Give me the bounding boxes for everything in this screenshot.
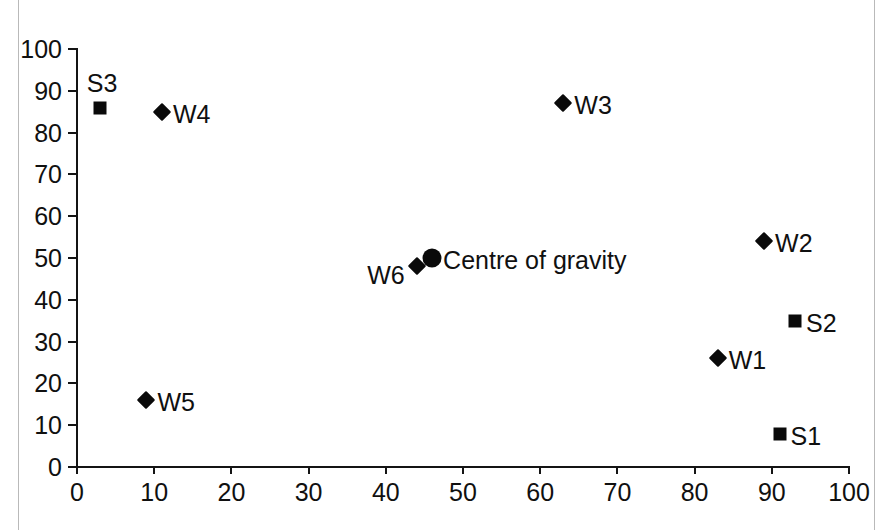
y-tick-label-60: 60 bbox=[0, 204, 62, 229]
x-tick-label-30: 30 bbox=[295, 480, 323, 505]
y-tick-label-wrap-20: 20 bbox=[0, 383, 62, 408]
x-tick-50 bbox=[462, 466, 464, 474]
data-point-label-w4: W4 bbox=[173, 101, 211, 126]
y-tick-label-wrap-10: 10 bbox=[0, 425, 62, 450]
data-point-label-w1: W1 bbox=[729, 348, 767, 373]
data-point-label-s2: S2 bbox=[806, 310, 837, 335]
data-point-label-s1: S1 bbox=[791, 423, 822, 448]
data-point-w5 bbox=[137, 391, 155, 409]
x-tick-label-100: 100 bbox=[828, 480, 870, 505]
y-tick-50 bbox=[68, 257, 76, 259]
x-tick-label-0: 0 bbox=[70, 480, 84, 505]
y-tick-label-90: 90 bbox=[0, 78, 62, 103]
x-tick-20 bbox=[230, 466, 232, 474]
x-tick-label-60: 60 bbox=[526, 480, 554, 505]
x-tick-30 bbox=[308, 466, 310, 474]
data-point-s1 bbox=[773, 427, 786, 440]
data-point-label-s3: S3 bbox=[87, 71, 118, 96]
y-tick-10 bbox=[68, 424, 76, 426]
x-tick-90 bbox=[771, 466, 773, 474]
y-tick-label-wrap-0: 0 bbox=[0, 467, 62, 492]
x-tick-60 bbox=[539, 466, 541, 474]
x-tick-label-90: 90 bbox=[758, 480, 786, 505]
y-tick-40 bbox=[68, 299, 76, 301]
y-tick-60 bbox=[68, 215, 76, 217]
x-tick-100 bbox=[848, 466, 850, 474]
data-point-s3 bbox=[94, 101, 107, 114]
y-tick-70 bbox=[68, 173, 76, 175]
x-tick-label-50: 50 bbox=[449, 480, 477, 505]
y-tick-label-wrap-80: 80 bbox=[0, 133, 62, 158]
x-tick-label-80: 80 bbox=[681, 480, 709, 505]
y-tick-label-wrap-60: 60 bbox=[0, 216, 62, 241]
data-point-w2 bbox=[755, 232, 773, 250]
y-tick-label-80: 80 bbox=[0, 120, 62, 145]
y-tick-label-70: 70 bbox=[0, 162, 62, 187]
data-point-s2 bbox=[788, 314, 801, 327]
y-tick-label-wrap-50: 50 bbox=[0, 258, 62, 283]
y-tick-label-wrap-30: 30 bbox=[0, 342, 62, 367]
y-tick-label-0: 0 bbox=[0, 455, 62, 480]
data-point-label-centre-of-gravity: Centre of gravity bbox=[443, 248, 626, 273]
plot-area: 0102030405060708090100 01020304050607080… bbox=[0, 0, 890, 530]
y-tick-label-wrap-90: 90 bbox=[0, 91, 62, 116]
y-tick-label-wrap-70: 70 bbox=[0, 174, 62, 199]
data-point-label-w3: W3 bbox=[574, 93, 612, 118]
x-tick-label-70: 70 bbox=[603, 480, 631, 505]
data-point-label-w6: W6 bbox=[367, 263, 405, 288]
x-tick-70 bbox=[616, 466, 618, 474]
y-tick-label-40: 40 bbox=[0, 287, 62, 312]
y-tick-0 bbox=[68, 466, 76, 468]
data-point-centre-of-gravity bbox=[423, 249, 442, 268]
x-tick-label-20: 20 bbox=[217, 480, 245, 505]
y-tick-label-50: 50 bbox=[0, 246, 62, 271]
x-tick-10 bbox=[153, 466, 155, 474]
y-axis-line bbox=[76, 48, 78, 468]
x-tick-80 bbox=[694, 466, 696, 474]
y-tick-90 bbox=[68, 90, 76, 92]
data-point-label-w2: W2 bbox=[775, 231, 813, 256]
scatter-plot-figure: 0102030405060708090100 01020304050607080… bbox=[0, 0, 890, 530]
x-tick-40 bbox=[385, 466, 387, 474]
x-tick-0 bbox=[76, 466, 78, 474]
y-tick-label-30: 30 bbox=[0, 329, 62, 354]
x-tick-label-40: 40 bbox=[372, 480, 400, 505]
y-tick-30 bbox=[68, 341, 76, 343]
x-tick-label-10: 10 bbox=[140, 480, 168, 505]
y-tick-label-wrap-40: 40 bbox=[0, 300, 62, 325]
data-point-label-w5: W5 bbox=[157, 390, 195, 415]
y-tick-label-20: 20 bbox=[0, 371, 62, 396]
y-tick-100 bbox=[68, 48, 76, 50]
data-point-w1 bbox=[709, 349, 727, 367]
y-tick-label-wrap-100: 100 bbox=[0, 49, 62, 74]
y-tick-80 bbox=[68, 132, 76, 134]
y-tick-label-10: 10 bbox=[0, 413, 62, 438]
y-tick-20 bbox=[68, 382, 76, 384]
y-tick-label-100: 100 bbox=[0, 37, 62, 62]
data-point-w3 bbox=[554, 94, 572, 112]
data-point-w4 bbox=[153, 102, 171, 120]
